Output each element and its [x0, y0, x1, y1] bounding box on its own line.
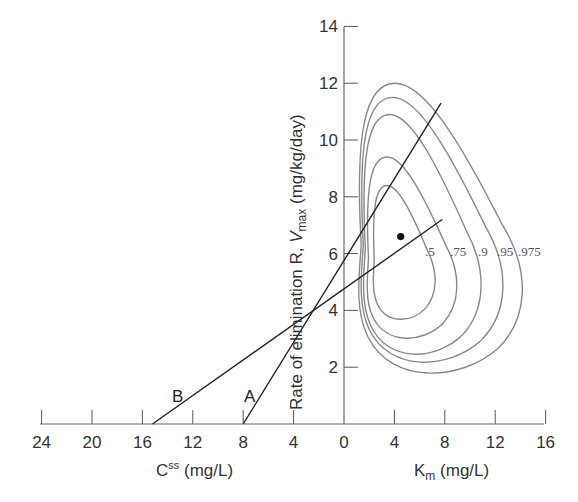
- y-tick-label: 14: [319, 17, 338, 36]
- x-axis-ticks: 24201612840481216: [32, 410, 555, 452]
- x-tick-label: 16: [133, 433, 152, 452]
- x-tick-label: 12: [486, 433, 505, 452]
- line-label-b: B: [172, 387, 183, 406]
- contour-label: .95: [497, 244, 513, 259]
- x-tick-label: 8: [238, 433, 247, 452]
- x-tick-label: 24: [32, 433, 51, 452]
- y-tick-label: 8: [329, 188, 338, 207]
- line-label-a: A: [244, 387, 256, 406]
- x-tick-label: 4: [390, 433, 399, 452]
- direct-linear-plot: 24201612840481216 2468101214 .5.75.9.95.…: [0, 0, 578, 502]
- x-tick-label: 16: [536, 433, 555, 452]
- x-tick-label: 12: [183, 433, 202, 452]
- contour-.975: [359, 83, 523, 373]
- y-tick-label: 2: [329, 358, 338, 377]
- y-tick-label: 4: [329, 301, 338, 320]
- contour-label: .9: [478, 244, 488, 259]
- x-tick-label: 4: [289, 433, 298, 452]
- contour-label: .975: [518, 244, 541, 259]
- contour-label: .5: [425, 244, 435, 259]
- y-tick-label: 12: [319, 74, 338, 93]
- contour-labels: .5.75.9.95.975: [425, 244, 541, 259]
- x-tick-label: 0: [339, 433, 348, 452]
- contour-.95: [361, 97, 503, 362]
- x-axis-label-km: Km (mg/L): [414, 461, 489, 483]
- probability-contours: [359, 83, 523, 373]
- y-axis-label: Rate of elimination R, Vmax (mg/kg/day): [287, 114, 309, 410]
- x-tick-label: 8: [440, 433, 449, 452]
- y-tick-label: 10: [319, 131, 338, 150]
- y-axis-ticks: 2468101214: [319, 17, 358, 377]
- km-vmax-estimate-point: [397, 233, 404, 240]
- contour-.75: [367, 157, 457, 338]
- line-a: [243, 103, 441, 424]
- x-axis-label-css: Css (mg/L): [156, 459, 233, 480]
- y-tick-label: 6: [329, 245, 338, 264]
- x-tick-label: 20: [83, 433, 102, 452]
- contour-label: .75: [450, 244, 466, 259]
